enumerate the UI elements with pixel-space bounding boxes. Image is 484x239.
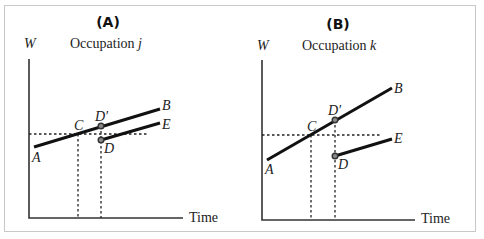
panel-b-x-axis-label: Time <box>421 211 450 226</box>
panel-b-label-d: D <box>337 157 348 172</box>
panel-b-label-e: E <box>393 131 403 146</box>
panel-a-label-b: B <box>162 98 171 113</box>
panel-b-line-ab <box>267 88 392 160</box>
panel-b-label-b: B <box>394 81 403 96</box>
panel-a-label-a: A <box>31 150 41 165</box>
panel-a-label-d: D <box>103 141 114 156</box>
panel-b-point-d-prime <box>332 117 338 123</box>
panel-a-label-e: E <box>161 117 171 132</box>
panel-b: (B) W Occupation k Time A B C D′ D E <box>257 16 450 226</box>
panel-b-subtitle-text: Occupation <box>302 38 370 53</box>
panel-a: (A) W Occupation j Time A B C D′ D E <box>24 14 218 225</box>
panel-b-title: (B) <box>326 16 349 32</box>
panel-a-point-d-prime <box>98 123 104 129</box>
panel-a-point-d <box>98 137 104 143</box>
panel-b-subtitle-var: k <box>370 38 377 53</box>
panel-b-label-d-prime: D′ <box>327 103 342 118</box>
panel-b-y-axis-label: W <box>257 38 270 53</box>
panel-b-subtitle: Occupation k <box>302 38 377 53</box>
panel-b-label-c: C <box>307 119 317 134</box>
panel-b-point-d <box>332 153 338 159</box>
panel-a-label-d-prime: D′ <box>94 109 109 124</box>
panel-a-label-c: C <box>74 118 84 133</box>
panel-a-x-axis-label: Time <box>189 210 218 225</box>
wage-diagram: (A) W Occupation j Time A B C D′ D E (B)… <box>0 0 484 239</box>
panel-a-subtitle-text: Occupation <box>70 36 138 51</box>
panel-a-subtitle: Occupation j <box>70 36 142 51</box>
panel-b-label-a: A <box>264 162 274 177</box>
panel-b-line-de <box>335 139 392 156</box>
panel-a-title: (A) <box>96 14 120 30</box>
panel-a-y-axis-label: W <box>24 36 37 51</box>
